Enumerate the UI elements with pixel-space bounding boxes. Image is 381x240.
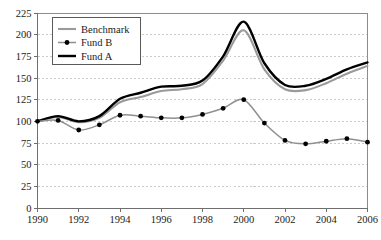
y-tick-label-200: 200 [16,29,32,40]
data-point-fund-b-1992 [76,128,81,133]
x-tick-label-1994: 1994 [110,214,132,225]
x-tick-label-1996: 1996 [151,214,172,225]
x-tick-label-2004: 2004 [316,214,338,225]
data-point-fund-b-1998 [200,112,205,117]
x-tick-label-1990: 1990 [27,214,48,225]
data-point-fund-b-1991 [56,118,61,123]
data-point-fund-b-2001 [262,121,267,126]
x-axis-tick-labels: 199019921994199619982000200220042006 [27,214,378,225]
y-tick-label-0: 0 [26,203,31,214]
legend-label-fund-b: Fund B [81,37,112,48]
y-tick-label-175: 175 [16,51,32,62]
data-point-fund-b-2004 [324,139,329,144]
data-point-fund-b-1999 [221,106,226,111]
data-point-fund-b-2006 [365,140,370,145]
data-point-fund-b-2003 [303,141,308,146]
data-point-fund-b-1995 [138,114,143,119]
y-tick-label-225: 225 [16,8,32,19]
data-point-fund-b-1993 [97,122,102,127]
data-point-fund-b-1997 [179,115,184,120]
x-tick-label-1992: 1992 [68,214,89,225]
x-tick-label-1998: 1998 [192,214,213,225]
y-tick-label-100: 100 [16,116,32,127]
chart-legend: BenchmarkFund BFund A [52,17,140,64]
legend-label-fund-a: Fund A [81,51,113,62]
data-point-fund-b-2002 [283,138,288,143]
data-point-fund-b-2005 [344,136,349,141]
legend-label-benchmark: Benchmark [81,24,130,35]
x-tick-label-2000: 2000 [233,214,254,225]
x-tick-label-2002: 2002 [275,214,296,225]
y-tick-label-50: 50 [21,159,32,170]
data-point-fund-b-1994 [118,113,123,118]
y-tick-label-25: 25 [21,181,32,192]
legend-marker-fund-b [65,40,70,45]
line-chart-figure: 0255075100125150175200225 19901992199419… [0,0,381,240]
chart-canvas: 0255075100125150175200225 19901992199419… [0,0,381,240]
data-point-fund-b-2000 [241,97,246,102]
y-tick-label-75: 75 [21,138,32,149]
data-point-fund-b-1996 [159,115,164,120]
y-tick-label-150: 150 [16,73,32,84]
y-tick-label-125: 125 [16,94,32,105]
x-tick-label-2006: 2006 [357,214,378,225]
data-point-fund-b-1990 [35,119,40,124]
